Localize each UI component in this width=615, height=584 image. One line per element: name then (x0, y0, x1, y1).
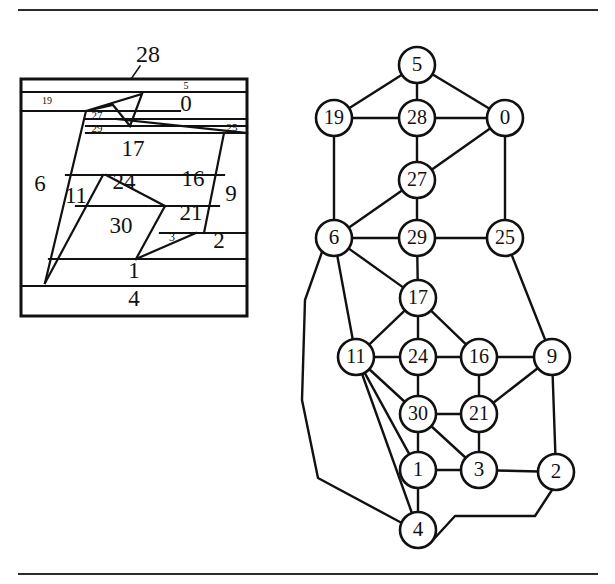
graph-node-29[interactable]: 29 (399, 220, 435, 256)
graph-node-label-4: 4 (413, 517, 424, 541)
graph-node-19[interactable]: 19 (316, 100, 352, 136)
graph-node-label-11: 11 (346, 345, 365, 367)
map-label-19: 19 (42, 95, 52, 106)
graph-node-16[interactable]: 16 (461, 339, 497, 375)
map-label-2: 2 (213, 228, 225, 253)
graph-node-label-28: 28 (407, 106, 427, 128)
rectangular-dual-map: 28 19 5 0 27 29 25 17 6 11 24 16 9 21 30… (0, 20, 300, 360)
map-label-3: 3 (169, 230, 175, 244)
graph-node-label-1: 1 (413, 457, 424, 481)
graph-node-label-30: 30 (408, 402, 428, 424)
graph-edge-5-0 (432, 74, 491, 109)
map-label-4: 4 (128, 286, 140, 311)
map-label-1: 1 (128, 258, 140, 283)
graph-node-21[interactable]: 21 (461, 396, 497, 432)
graph-node-layer: 519280276292517112416930211324 (316, 47, 574, 548)
graph-node-label-24: 24 (408, 345, 428, 367)
graph-edge-6-17 (348, 248, 404, 288)
graph-edge-5-19 (348, 74, 402, 109)
map-label-17: 17 (122, 136, 145, 161)
map-label-5: 5 (184, 80, 189, 91)
graph-node-1[interactable]: 1 (400, 452, 436, 488)
graph-node-label-29: 29 (407, 226, 427, 248)
graph-node-label-0: 0 (500, 105, 511, 129)
graph-node-27[interactable]: 27 (399, 162, 435, 198)
planar-adjacency-graph: 519280276292517112416930211324 (290, 0, 610, 584)
graph-edge-6-4 (302, 252, 400, 522)
graph-node-label-5: 5 (412, 52, 423, 76)
graph-node-5[interactable]: 5 (399, 47, 435, 83)
graph-edge-3-2 (496, 470, 539, 471)
map-label-24: 24 (113, 169, 137, 194)
graph-node-2[interactable]: 2 (538, 454, 574, 490)
graph-node-30[interactable]: 30 (400, 396, 436, 432)
graph-node-label-17: 17 (408, 286, 428, 308)
figure-root: 28 19 5 0 27 29 25 17 6 11 24 16 9 21 30… (0, 0, 615, 584)
graph-edge-9-2 (553, 374, 556, 455)
graph-node-9[interactable]: 9 (534, 339, 570, 375)
graph-node-6[interactable]: 6 (316, 220, 352, 256)
graph-edge-17-16 (430, 310, 467, 345)
graph-node-4[interactable]: 4 (400, 512, 436, 548)
map-label-16: 16 (182, 166, 205, 191)
map-label-11: 11 (65, 183, 87, 208)
map-label-27: 27 (92, 109, 104, 121)
graph-node-label-16: 16 (469, 345, 489, 367)
graph-node-label-25: 25 (495, 226, 515, 248)
map-label-0: 0 (180, 91, 192, 116)
graph-node-label-27: 27 (407, 168, 427, 190)
graph-node-label-3: 3 (474, 457, 485, 481)
graph-node-label-6: 6 (329, 225, 340, 249)
graph-edge-27-6 (348, 190, 403, 229)
graph-node-28[interactable]: 28 (399, 100, 435, 136)
graph-node-25[interactable]: 25 (487, 220, 523, 256)
map-label-30: 30 (110, 213, 133, 238)
graph-node-17[interactable]: 17 (400, 280, 436, 316)
graph-edge-17-11 (368, 310, 405, 346)
graph-edge-6-11 (337, 255, 353, 341)
map-label-25: 25 (227, 121, 239, 133)
graph-node-3[interactable]: 3 (461, 452, 497, 488)
map-label-9: 9 (225, 181, 237, 206)
graph-node-label-2: 2 (551, 459, 562, 483)
graph-edge-21-9 (492, 367, 538, 403)
graph-node-label-19: 19 (324, 106, 344, 128)
graph-edge-0-27 (431, 128, 491, 170)
graph-node-11[interactable]: 11 (338, 339, 374, 375)
map-label-29: 29 (92, 122, 104, 134)
map-label-21: 21 (180, 200, 203, 225)
graph-node-label-9: 9 (547, 344, 558, 368)
graph-node-24[interactable]: 24 (400, 339, 436, 375)
graph-edge-30-3 (431, 425, 467, 458)
graph-node-label-21: 21 (469, 402, 489, 424)
map-label-28: 28 (136, 41, 160, 67)
map-label-6: 6 (34, 171, 46, 196)
graph-node-0[interactable]: 0 (487, 100, 523, 136)
graph-edge-4-2 (433, 490, 552, 540)
graph-edge-25-9 (511, 254, 546, 341)
graph-edge-11-30 (369, 369, 406, 403)
